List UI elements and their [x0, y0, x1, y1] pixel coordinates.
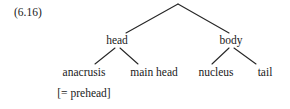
- tree-branch-lines: [0, 0, 290, 109]
- branch-body-to-nucleus: [212, 48, 229, 64]
- tree-node-tail: tail: [258, 66, 273, 79]
- branch-body-to-tail: [234, 48, 256, 64]
- tree-node-main-head: main head: [130, 66, 178, 79]
- branch-head-to-main-head: [120, 48, 138, 64]
- tree-node-head: head: [106, 34, 128, 47]
- figure-tree-diagram: (6.16) head body anacrusis main head nuc…: [0, 0, 290, 109]
- prehead-gloss: [= prehead]: [57, 87, 110, 100]
- tree-node-anacrusis: anacrusis: [63, 66, 106, 79]
- branch-root-to-body: [178, 4, 229, 33]
- branch-root-to-head: [126, 4, 178, 33]
- tree-node-nucleus: nucleus: [198, 66, 233, 79]
- tree-node-body: body: [220, 34, 243, 47]
- branch-head-to-anacrusis: [95, 48, 115, 64]
